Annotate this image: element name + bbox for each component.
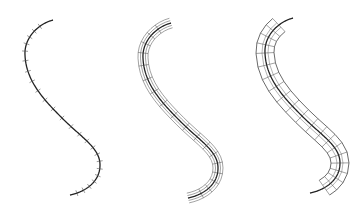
- tube-edge: [256, 19, 331, 181]
- tube-edge: [268, 27, 343, 190]
- tube-edge: [262, 23, 337, 185]
- ribbon-edge: [145, 25, 220, 200]
- s-curve: [25, 20, 100, 195]
- s-curve: [265, 18, 340, 193]
- panel-ribbon-mesh: [138, 18, 223, 203]
- panel-tube-mesh: [256, 18, 349, 195]
- panel-curve-with-ticks: [22, 20, 103, 196]
- ribbon-edge: [141, 21, 216, 196]
- ribbon-edge: [138, 18, 213, 193]
- ribbon-edge: [148, 28, 223, 203]
- s-curve: [143, 23, 218, 198]
- figure-canvas: [0, 0, 364, 209]
